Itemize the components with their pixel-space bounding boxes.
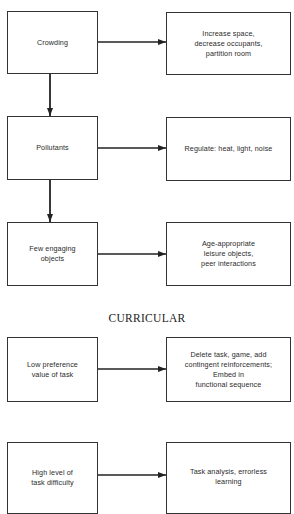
problem-box-pollutants: Pollutants xyxy=(7,116,98,180)
problem-label: Crowding xyxy=(37,38,68,48)
intervention-label: Task analysis, errorless learning xyxy=(190,467,267,487)
problem-label: Low preference value of task xyxy=(27,360,78,380)
problem-label: High level of task difficulty xyxy=(31,468,74,488)
problem-label: Few engaging objects xyxy=(29,244,75,264)
problem-box-few-engaging-objects: Few engaging objects xyxy=(7,222,98,286)
intervention-label: Regulate: heat, light, noise xyxy=(185,144,273,154)
intervention-box-task-difficulty: Task analysis, errorless learning xyxy=(166,442,291,514)
section-heading-curricular: CURRICULAR xyxy=(0,312,294,324)
problem-box-crowding: Crowding xyxy=(7,11,98,74)
problem-box-low-preference: Low preference value of task xyxy=(7,337,98,402)
intervention-label: Delete task, game, add contingent reinfo… xyxy=(185,350,272,390)
problem-box-task-difficulty: High level of task difficulty xyxy=(7,442,98,514)
intervention-box-low-preference: Delete task, game, add contingent reinfo… xyxy=(166,337,291,402)
intervention-box-few-engaging-objects: Age-appropriate leisure objects, peer in… xyxy=(166,222,291,286)
intervention-box-crowding: Increase space, decrease occupants, part… xyxy=(166,12,291,75)
problem-label: Pollutants xyxy=(36,143,69,153)
intervention-box-pollutants: Regulate: heat, light, noise xyxy=(166,117,291,181)
intervention-label: Increase space, decrease occupants, part… xyxy=(194,29,262,59)
intervention-label: Age-appropriate leisure objects, peer in… xyxy=(201,239,256,269)
